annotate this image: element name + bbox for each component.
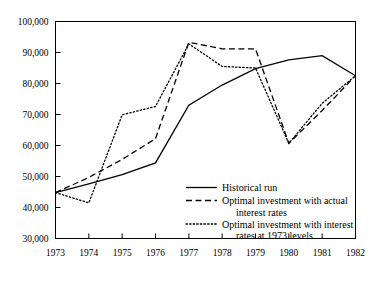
y-axis-tick-label: 50,000 <box>22 172 48 182</box>
x-axis-tick-label: 1978 <box>213 248 232 258</box>
x-axis-tick-label: 1974 <box>79 248 98 258</box>
x-axis-tick-label: 1977 <box>179 248 198 258</box>
legend-label: Historical run <box>222 182 277 193</box>
y-axis-tick-label: 100,000 <box>18 17 49 27</box>
x-axis-tick-label: 1975 <box>113 248 132 258</box>
line-chart-figure: 100,00090,00080,00070,00060,00050,00040,… <box>0 0 384 289</box>
y-axis-tick-label: 30,000 <box>22 234 48 244</box>
x-axis-tick-label: 1979 <box>246 248 265 258</box>
x-axis-tick-label: 1982 <box>346 248 365 258</box>
x-axis-tick-label: 1981 <box>313 248 332 258</box>
chart-canvas: 100,00090,00080,00070,00060,00050,00040,… <box>0 0 384 289</box>
x-axis-tick-label: 1973 <box>46 248 65 258</box>
y-axis-tick-label: 80,000 <box>22 79 48 89</box>
legend-label: Optimal investment with interest <box>222 219 354 230</box>
y-axis-tick-label: 70,000 <box>22 110 48 120</box>
y-axis-tick-label: 90,000 <box>22 48 48 58</box>
legend-label: interest rates <box>236 207 287 218</box>
x-axis-tick-label: 1980 <box>279 248 298 258</box>
x-axis-tick-label: 1976 <box>146 248 165 258</box>
legend-label: Optimal investment with actual <box>222 195 348 206</box>
y-axis-tick-label: 40,000 <box>22 203 48 213</box>
y-axis-tick-label: 60,000 <box>22 141 48 151</box>
legend-label: rates at 1973 levels <box>236 230 313 241</box>
